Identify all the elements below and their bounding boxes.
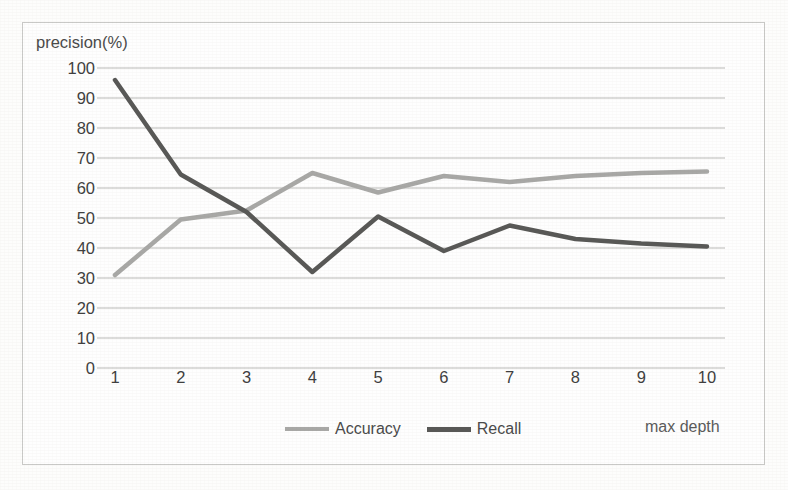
- y-tick-label: 60: [49, 179, 95, 198]
- y-tick-label: 100: [49, 59, 95, 78]
- x-tick-label: 1: [95, 368, 135, 387]
- legend-label-accuracy: Accuracy: [335, 420, 401, 438]
- x-tick-label: 8: [555, 368, 595, 387]
- series-lines: [115, 80, 707, 275]
- legend-label-recall: Recall: [477, 420, 521, 438]
- x-tick-label: 5: [358, 368, 398, 387]
- legend-item-accuracy[interactable]: Accuracy: [285, 420, 401, 438]
- y-tick-label: 0: [49, 359, 95, 378]
- y-tick-label: 80: [49, 119, 95, 138]
- y-tick-label: 30: [49, 269, 95, 288]
- x-axis-title: max depth: [645, 418, 720, 436]
- y-tick-label: 40: [49, 239, 95, 258]
- y-tick-label: 90: [49, 89, 95, 108]
- x-tick-label: 10: [687, 368, 727, 387]
- y-tick-label: 70: [49, 149, 95, 168]
- x-tick-label: 3: [227, 368, 267, 387]
- legend-line-accuracy-icon: [285, 427, 329, 431]
- line-chart: precision(%) 1009080706050403020100 1234…: [0, 0, 788, 490]
- y-tick-label: 10: [49, 329, 95, 348]
- legend-item-recall[interactable]: Recall: [427, 420, 521, 438]
- x-tick-label: 6: [424, 368, 464, 387]
- y-tick-label: 20: [49, 299, 95, 318]
- y-tick-label: 50: [49, 209, 95, 228]
- legend-line-recall-icon: [427, 427, 471, 432]
- x-tick-label: 2: [161, 368, 201, 387]
- plot-area: [0, 0, 788, 490]
- x-tick-label: 7: [490, 368, 530, 387]
- x-tick-label: 4: [292, 368, 332, 387]
- chart-legend: Accuracy Recall: [285, 420, 521, 438]
- x-tick-label: 9: [621, 368, 661, 387]
